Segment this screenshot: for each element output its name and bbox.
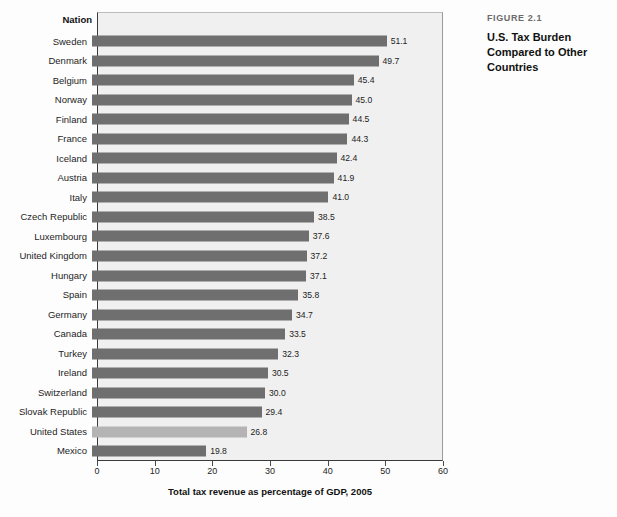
x-tick-label: 40 (323, 466, 333, 476)
bar (92, 94, 352, 105)
bar-track: 45.0 (92, 90, 444, 110)
x-axis-title: Total tax revenue as percentage of GDP, … (97, 486, 443, 497)
bar-track: 49.7 (92, 51, 444, 71)
bar-row-label: United Kingdom (0, 251, 92, 261)
bar-row: Ireland30.5 (0, 363, 444, 383)
bar-row-label: France (0, 134, 92, 144)
x-tick-label: 30 (265, 466, 275, 476)
bar (92, 329, 285, 340)
bar-row-label: Italy (0, 193, 92, 203)
bar-row-label: Spain (0, 290, 92, 300)
bar (92, 172, 334, 183)
bar-row-label: Ireland (0, 368, 92, 378)
bar-value-label: 32.3 (282, 349, 299, 358)
bar-row: Turkey32.3 (0, 344, 444, 364)
bar-track: 42.4 (92, 149, 444, 169)
bar-value-label: 29.4 (266, 408, 283, 417)
bar-track: 44.5 (92, 110, 444, 130)
x-tick-label: 20 (207, 466, 217, 476)
bar-value-label: 26.8 (251, 427, 268, 436)
bar-row: Austria41.9 (0, 168, 444, 188)
bar (92, 270, 306, 281)
bar-track: 30.5 (92, 363, 444, 383)
figure-caption: FIGURE 2.1 U.S. Tax Burden Compared to O… (487, 14, 609, 74)
bar (92, 368, 268, 379)
bar-track: 38.5 (92, 207, 444, 227)
bar-value-label: 45.0 (356, 96, 373, 105)
bar-row-label: Mexico (0, 446, 92, 456)
bar (92, 387, 265, 398)
bar (92, 251, 307, 262)
bar-track: 41.0 (92, 188, 444, 208)
bar (92, 290, 298, 301)
bar-value-label: 45.4 (358, 76, 375, 85)
bar (92, 446, 206, 457)
bar-row: Iceland42.4 (0, 149, 444, 169)
bar-track: 32.3 (92, 344, 444, 364)
bar-value-label: 34.7 (296, 310, 313, 319)
x-tick-label: 10 (150, 466, 160, 476)
bar-value-label: 33.5 (289, 330, 306, 339)
bar (92, 407, 262, 418)
bar (92, 153, 337, 164)
bar-track: 37.1 (92, 266, 444, 286)
bar-track: 19.8 (92, 441, 444, 461)
bar-row: Sweden51.1 (0, 32, 444, 52)
bar-row: Czech Republic38.5 (0, 207, 444, 227)
bar-row: Canada33.5 (0, 324, 444, 344)
x-tick-label: 60 (438, 466, 448, 476)
bar (92, 426, 247, 437)
bar-value-label: 49.7 (383, 56, 400, 65)
figure-number: FIGURE 2.1 (487, 14, 609, 24)
x-axis-tick-labels: 0102030405060 (97, 466, 443, 480)
bar-row-label: Austria (0, 173, 92, 183)
bar (92, 55, 379, 66)
bar-row-label: Slovak Republic (0, 407, 92, 417)
bar-row: Spain35.8 (0, 285, 444, 305)
bar-track: 37.2 (92, 246, 444, 266)
bar-value-label: 51.1 (391, 37, 408, 46)
bar-value-label: 19.8 (210, 447, 227, 456)
bar-track: 29.4 (92, 402, 444, 422)
bar-row-label: Luxembourg (0, 232, 92, 242)
bar-track: 33.5 (92, 324, 444, 344)
bar-row-label: Canada (0, 329, 92, 339)
bar-row: Italy41.0 (0, 188, 444, 208)
bar-row-label: United States (0, 427, 92, 437)
bar-rows: Sweden51.1Denmark49.7Belgium45.4Norway45… (0, 12, 444, 461)
bar (92, 348, 278, 359)
bar-value-label: 35.8 (302, 291, 319, 300)
bar (92, 114, 349, 125)
bar-value-label: 30.0 (269, 388, 286, 397)
bar-value-label: 37.1 (310, 271, 327, 280)
bar-row: United Kingdom37.2 (0, 246, 444, 266)
bar-row-label: Czech Republic (0, 212, 92, 222)
figure-title: U.S. Tax Burden Compared to Other Countr… (487, 30, 609, 75)
bar-track: 30.0 (92, 383, 444, 403)
bar-row-label: Iceland (0, 154, 92, 164)
bar-row: Denmark49.7 (0, 51, 444, 71)
bar (92, 211, 314, 222)
bar-chart: Nation Sweden51.1Denmark49.7Belgium45.4N… (0, 0, 470, 517)
bar-row-label: Belgium (0, 76, 92, 86)
bar-row: Finland44.5 (0, 110, 444, 130)
bar-row: Mexico19.8 (0, 441, 444, 461)
bar-row: Switzerland30.0 (0, 383, 444, 403)
bar-row: Luxembourg37.6 (0, 227, 444, 247)
bar-row-label: Denmark (0, 56, 92, 66)
x-tick-label: 50 (380, 466, 390, 476)
bar-row: United States26.8 (0, 422, 444, 442)
bar-row-label: Norway (0, 95, 92, 105)
bar-track: 51.1 (92, 32, 444, 52)
bar-value-label: 44.5 (353, 115, 370, 124)
bar-row-label: Germany (0, 310, 92, 320)
bar-track: 34.7 (92, 305, 444, 325)
bar (92, 192, 328, 203)
bar-row-label: Switzerland (0, 388, 92, 398)
bar-value-label: 41.0 (332, 193, 349, 202)
bar-value-label: 37.2 (311, 252, 328, 261)
bar-track: 44.3 (92, 129, 444, 149)
bar-track: 45.4 (92, 71, 444, 91)
bar-value-label: 44.3 (351, 135, 368, 144)
bar-value-label: 42.4 (341, 154, 358, 163)
